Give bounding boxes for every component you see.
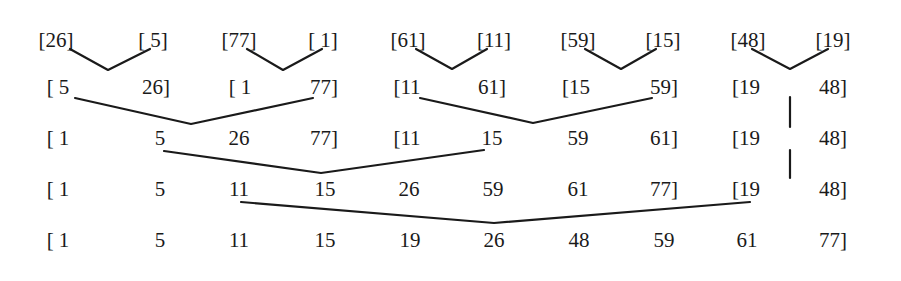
merge-connector-line [247, 49, 322, 70]
sorted-value-cell: 15 [482, 126, 503, 150]
sorted-value-cell: [15 [562, 75, 590, 99]
sorted-value-cell: [19 [732, 177, 760, 201]
sorted-value-cell: 59] [650, 75, 678, 99]
sorted-value-cell: 61 [737, 228, 758, 252]
sorted-value-cell: [11 [393, 75, 420, 99]
sorted-value-cell: 15 [315, 177, 336, 201]
sorted-value-cell: [ 1 [47, 228, 70, 252]
sorted-value-cell: [11 [393, 126, 420, 150]
sorted-value-cell: 77] [650, 177, 678, 201]
sorted-value-cell: 5 [155, 126, 166, 150]
sorted-value-cell: [77] [222, 28, 257, 52]
merge-connector-line [70, 49, 150, 70]
sorted-value-cell: 59 [568, 126, 589, 150]
sorted-value-cell: 59 [654, 228, 675, 252]
merge-connector-line [752, 49, 828, 69]
sorted-value-cell: [11] [477, 28, 511, 52]
sorted-value-cell: 11 [229, 177, 249, 201]
sorted-value-cell: 15 [315, 228, 336, 252]
sorted-value-cell: [ 1 [47, 177, 70, 201]
merge-connector-line [164, 150, 484, 173]
sorted-value-cell: 61] [650, 126, 678, 150]
sorted-value-cell: 77] [310, 126, 338, 150]
sorted-value-cell: 26 [399, 177, 420, 201]
sorted-value-cell: 48] [819, 177, 847, 201]
sorted-value-cell: [ 1] [308, 28, 338, 52]
sorted-value-cell: 61 [568, 177, 589, 201]
merge-connector-line [241, 202, 750, 223]
sorted-value-cell: [19] [816, 28, 851, 52]
sorted-value-cell: [ 1 [47, 126, 70, 150]
sorted-value-cell: 48] [819, 126, 847, 150]
sorted-value-cell: 48] [819, 75, 847, 99]
sorted-value-cell: 77] [819, 228, 847, 252]
sorted-value-cell: [ 1 [229, 75, 252, 99]
sorted-value-cell: 11 [229, 228, 249, 252]
sorted-value-cell: 19 [400, 228, 421, 252]
sorted-value-cell: 5 [155, 228, 166, 252]
merge-connector-line [420, 98, 652, 123]
sorted-value-cell: [19 [732, 126, 760, 150]
sorted-value-cell: 59 [483, 177, 504, 201]
sorted-value-cell: [48] [731, 28, 766, 52]
merge-sort-diagram: [26][ 5][77][ 1][61][11][59][15][48][19]… [0, 0, 901, 281]
sorted-value-cell: [19 [732, 75, 760, 99]
sorted-value-cell: [15] [646, 28, 681, 52]
merge-connector-line [75, 98, 313, 124]
sorted-value-cell: 77] [310, 75, 338, 99]
sorted-value-cell: [ 5] [138, 28, 168, 52]
sorted-value-cell: [59] [561, 28, 596, 52]
sorted-value-cell: 26] [142, 75, 170, 99]
merge-connector-line [585, 49, 656, 69]
merge-connector-line [416, 49, 487, 69]
sorted-value-cell: [ 5 [47, 75, 70, 99]
sorted-value-cell: 5 [155, 177, 166, 201]
merge-connectors [0, 0, 901, 281]
sorted-value-cell: 26 [229, 126, 250, 150]
sorted-value-cell: 26 [484, 228, 505, 252]
sorted-value-cell: [61] [391, 28, 426, 52]
sorted-value-cell: 61] [478, 75, 506, 99]
sorted-value-cell: [26] [39, 28, 74, 52]
sorted-value-cell: 48 [569, 228, 590, 252]
